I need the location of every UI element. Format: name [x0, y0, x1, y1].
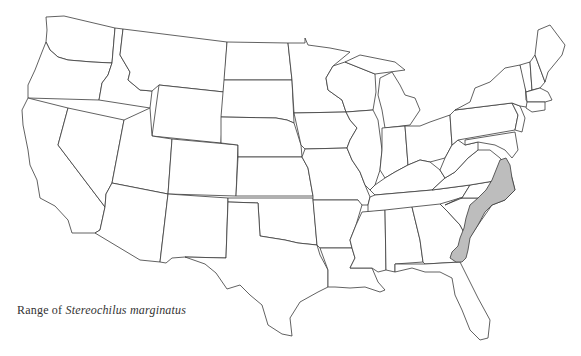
state-kansas — [236, 157, 313, 196]
state-colorado — [168, 139, 238, 196]
state-north-dakota — [224, 42, 292, 80]
state-connecticut — [526, 102, 545, 112]
map-caption: Range of Stereochilus marginatus — [17, 303, 186, 318]
state-iowa — [294, 112, 357, 149]
caption-prefix: Range of — [17, 303, 62, 317]
state-michigan-lower — [378, 72, 420, 128]
state-florida — [395, 262, 490, 340]
state-arizona — [95, 183, 168, 262]
state-new-mexico — [160, 194, 228, 263]
state-south-dakota — [221, 80, 294, 123]
state-wyoming — [152, 85, 224, 143]
caption-species: Stereochilus marginatus — [65, 303, 186, 317]
state-montana — [120, 29, 227, 92]
state-new-york — [455, 65, 532, 110]
